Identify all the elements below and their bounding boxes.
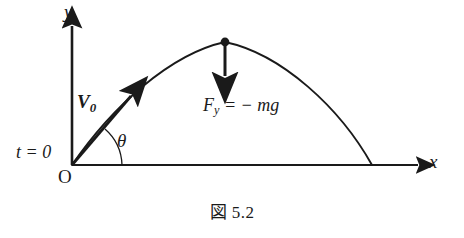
figure-caption: 図 5.2 (0, 204, 464, 221)
force-subscript: y (214, 103, 219, 117)
figure-container: y x O t = 0 V0 θ Fy = − mg 図 5.2 (0, 0, 464, 238)
time-zero-label: t = 0 (16, 143, 51, 161)
initial-velocity-subscript: 0 (90, 100, 96, 115)
origin-label: O (58, 167, 72, 186)
gravity-force-label: Fy = − mg (203, 96, 279, 117)
launch-angle-label: θ (117, 131, 126, 150)
y-axis-label: y (64, 2, 72, 21)
initial-velocity-symbol: V (77, 91, 90, 112)
initial-velocity-label: V0 (77, 92, 96, 115)
force-equation-rhs: = − mg (224, 95, 279, 115)
x-axis-label: x (429, 152, 437, 171)
force-symbol: F (203, 95, 214, 115)
